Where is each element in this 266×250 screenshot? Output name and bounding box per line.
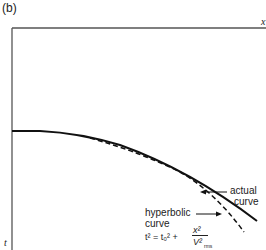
hyperbolic-arrowhead-icon [216, 212, 222, 217]
actual-label-line1: actual [230, 186, 257, 196]
actual-curve [12, 131, 257, 221]
formula-denominator: V² [193, 237, 202, 247]
x-axis-label: x [261, 17, 265, 27]
diagram-canvas [0, 0, 266, 250]
panel-label: (b) [2, 2, 17, 14]
formula-subscript: rms [204, 244, 212, 249]
hyperbolic-label-line1: hyperbolic [145, 208, 191, 218]
hyperbolic-label-line2: curve [145, 219, 169, 229]
t-axis-label: t [4, 238, 7, 248]
formula-fraction-bar [192, 235, 208, 236]
formula-lhs: t² = t₀² + [145, 232, 178, 242]
actual-label-line2: curve [234, 197, 258, 207]
actual-arrowhead-icon [200, 190, 206, 195]
formula-numerator: x² [193, 225, 201, 235]
